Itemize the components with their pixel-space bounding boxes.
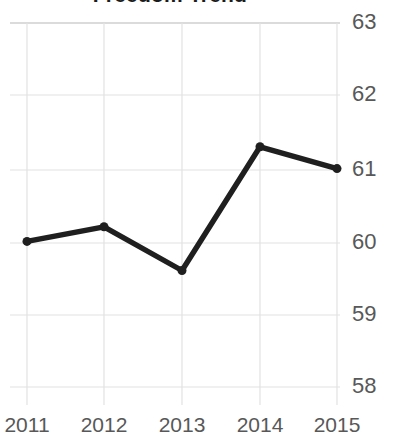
data-point-2012	[100, 222, 109, 231]
x-tick-label-2012: 2012	[61, 414, 147, 435]
x-tick-label-2015: 2015	[294, 414, 380, 435]
x-tick-label-2014: 2014	[217, 414, 303, 435]
y-tick-label-62: 62	[352, 83, 400, 105]
vertical-gridlines	[27, 23, 337, 405]
y-tick-label-59: 59	[352, 303, 400, 325]
line-chart-figure: Freedom Trend	[0, 0, 407, 445]
data-point-2013	[178, 266, 187, 275]
y-tick-label-63: 63	[352, 11, 400, 33]
y-tick-label-61: 61	[352, 158, 400, 180]
data-point-2015	[333, 164, 342, 173]
x-tick-label-2011: 2011	[0, 414, 70, 435]
y-tick-label-58: 58	[352, 375, 400, 397]
data-point-2014	[256, 142, 265, 151]
y-tick-label-60: 60	[352, 231, 400, 253]
horizontal-gridlines	[10, 23, 340, 387]
plot-area	[0, 0, 407, 445]
data-point-2011	[23, 237, 32, 246]
chart-plot-svg	[0, 0, 407, 445]
x-tick-label-2013: 2013	[139, 414, 225, 435]
